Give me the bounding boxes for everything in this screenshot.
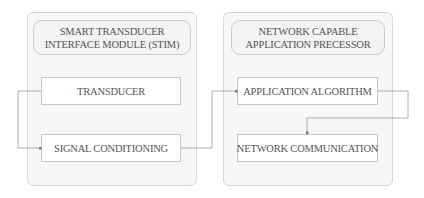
signal-conditioning-block: SIGNAL CONDITIONING [41,134,181,162]
transducer-block: TRANSDUCER [41,77,181,105]
ncap-header: NETWORK CAPABLE APPLICATION PRECESSOR [231,20,385,55]
network-communication-block: NETWORK COMMUNICATION [237,134,378,162]
application-algorithm-block: APPLICATION ALGORITHM [237,77,378,105]
stim-title-line-1: SMART TRANSDUCER [60,25,165,38]
stim-header: SMART TRANSDUCER INTERFACE MODULE (STIM) [33,20,191,55]
ncap-title-line-2: APPLICATION PRECESSOR [245,38,370,51]
ncap-title-line-1: NETWORK CAPABLE [259,25,358,38]
stim-title-line-2: INTERFACE MODULE (STIM) [45,38,180,51]
